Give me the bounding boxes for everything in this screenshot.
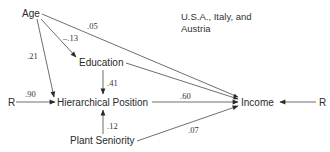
coef-hierarchical-position-to-income: .60 [180,92,191,101]
node-residual-left: R [8,97,15,108]
node-age: Age [22,8,40,19]
coef-education-to-hierarchical-position: .41 [107,79,118,88]
coef-plant-seniority-to-income: .07 [188,126,199,135]
caption-line-1: U.S.A., Italy, and [181,11,271,23]
node-education: Education [79,57,123,68]
path-diagram: U.S.A., Italy, and Austria Age Education… [0,0,330,152]
coef-age-to-income: .05 [87,22,98,31]
node-income: Income [241,97,274,108]
node-hierarchical-position: Hierarchical Position [57,97,148,108]
coef-age-to-hierarchical-position: .21 [27,52,38,61]
coef-age-to-education: –.13 [63,34,78,43]
node-residual-right: R [319,97,326,108]
diagram-caption: U.S.A., Italy, and Austria [181,11,271,35]
edge-plant-seniority-to-income [137,106,238,141]
coef-plant-seniority-to-hierarchical-position: .12 [107,122,118,131]
caption-line-2: Austria [181,23,271,35]
coef-residual-to-hierarchical-position: .90 [25,90,36,99]
node-plant-seniority: Plant Seniority [70,135,134,146]
diagram-edges [0,0,330,152]
